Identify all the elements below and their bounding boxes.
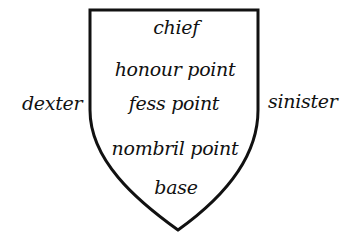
label-dexter: dexter [22, 92, 82, 114]
label-base: base [154, 176, 197, 198]
shield-diagram: chief honour point fess point nombril po… [0, 0, 346, 238]
label-nombril-point: nombril point [112, 137, 239, 159]
label-fess-point: fess point [129, 92, 219, 114]
label-sinister: sinister [268, 90, 337, 112]
label-chief: chief [153, 16, 199, 38]
label-honour-point: honour point [115, 58, 236, 80]
